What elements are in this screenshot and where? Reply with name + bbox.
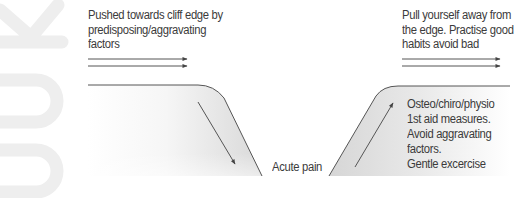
treatment-line: 1st aid measures. (407, 112, 495, 127)
left-caption-line: predisposing/aggravating (88, 23, 223, 38)
right-caption-line: habits avoid bad (402, 37, 514, 52)
watermark (0, 5, 62, 192)
right-caption-line: Pull yourself away from (402, 8, 514, 23)
left-caption-line: Pushed towards cliff edge by (88, 8, 223, 23)
right-caption-line: the edge. Practise good (402, 23, 514, 38)
treatment-line: factors. (407, 142, 495, 157)
treatment-line: Avoid aggravating (407, 127, 495, 142)
right-caption: Pull yourself away from the edge. Practi… (402, 8, 514, 52)
treatment-list: Osteo/chiro/physio 1st aid measures. Avo… (407, 97, 495, 172)
acute-pain-label: Acute pain (272, 160, 322, 175)
treatment-line: Osteo/chiro/physio (407, 97, 495, 112)
left-caption: Pushed towards cliff edge by predisposin… (88, 8, 223, 52)
treatment-line: Gentle excercise (407, 157, 495, 172)
left-caption-line: factors (88, 37, 223, 52)
